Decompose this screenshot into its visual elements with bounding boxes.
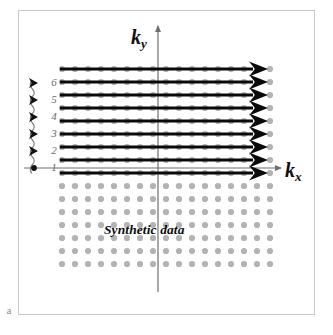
- x-axis-label: kx: [285, 159, 302, 185]
- line-index-label: 5: [48, 94, 60, 105]
- x-axis-label-sub: x: [295, 169, 302, 184]
- line-index-label: 2: [48, 145, 60, 156]
- y-axis-label-base: k: [131, 26, 141, 48]
- line-index-label: 4: [48, 111, 60, 122]
- y-axis-label-sub: y: [141, 36, 147, 51]
- figure-root: a ky kx Synthetic data 123456: [0, 0, 333, 335]
- line-index-label: 1: [48, 162, 60, 173]
- x-axis-label-base: k: [285, 159, 295, 181]
- line-index-label: 3: [48, 128, 60, 139]
- line-index-label: 6: [48, 77, 60, 88]
- plot-area: ky kx Synthetic data 123456: [0, 0, 333, 335]
- synthetic-data-annotation: Synthetic data: [104, 222, 185, 238]
- y-axis-label: ky: [131, 26, 147, 52]
- index-connector-line: [30, 80, 34, 174]
- index-dot-marker: [31, 165, 37, 171]
